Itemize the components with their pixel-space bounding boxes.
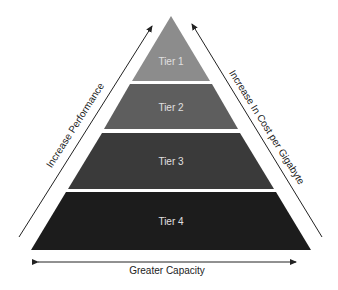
- tier-2-label: Tier 2: [158, 102, 184, 113]
- tier-4-label: Tier 4: [158, 216, 184, 227]
- capacity-label: Greater Capacity: [129, 265, 205, 276]
- tier-pyramid-diagram: Tier 1 Tier 2 Tier 3 Tier 4 Increase Per…: [0, 0, 338, 290]
- tier-1-label: Tier 1: [158, 56, 184, 67]
- tier-1-shape: [132, 16, 210, 81]
- tier-3-label: Tier 3: [158, 156, 184, 167]
